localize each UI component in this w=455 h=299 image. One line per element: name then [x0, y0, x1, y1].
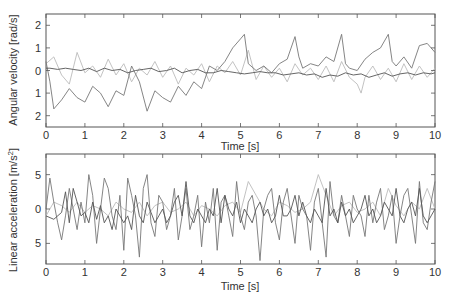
- y-tick-label: 1: [35, 87, 41, 99]
- x-tick-label: 1: [82, 266, 88, 278]
- x-tick-label: 9: [393, 129, 399, 141]
- top-plot-y-axis-label: Angular velocity [rad/s]: [7, 14, 19, 125]
- x-tick-label: 7: [315, 266, 321, 278]
- top-plot-frame: [46, 14, 435, 127]
- x-tick-label: 1: [82, 129, 88, 141]
- x-tick-label: 7: [315, 129, 321, 141]
- x-tick-label: 3: [160, 129, 166, 141]
- x-tick-label: 6: [276, 129, 282, 141]
- x-tick-label: 6: [276, 266, 282, 278]
- y-tick-label: 1: [35, 42, 41, 54]
- bottom-plot-x-axis-label: Time [s]: [221, 280, 260, 292]
- x-tick-label: 9: [393, 266, 399, 278]
- x-tick-label: 0: [43, 266, 49, 278]
- bottom-plot-y-axis-label: Linear acceleration [m/s2]: [6, 148, 19, 272]
- top-plot-x-axis-label: Time [s]: [221, 140, 260, 152]
- y-tick-label: 0: [35, 65, 41, 77]
- x-tick-label: 8: [354, 129, 360, 141]
- x-tick-label: 4: [199, 266, 205, 278]
- y-tick-label: 5: [35, 237, 41, 249]
- x-tick-label: 3: [160, 266, 166, 278]
- x-tick-label: 4: [199, 129, 205, 141]
- linear-acceleration-plot: 012345678910 505 Time [s] Linear acceler…: [6, 148, 441, 292]
- x-tick-label: 2: [121, 266, 127, 278]
- x-tick-label: 10: [429, 266, 441, 278]
- y-tick-label: 2: [35, 110, 41, 122]
- x-tick-label: 0: [43, 129, 49, 141]
- figure: 012345678910 21012 Time [s] Angular velo…: [0, 0, 455, 299]
- x-tick-label: 2: [121, 129, 127, 141]
- angular-velocity-plot: 012345678910 21012 Time [s] Angular velo…: [7, 14, 441, 152]
- x-tick-label: 5: [237, 266, 243, 278]
- x-tick-label: 10: [429, 129, 441, 141]
- y-tick-label: 2: [35, 19, 41, 31]
- y-tick-label: 5: [35, 169, 41, 181]
- x-tick-label: 8: [354, 266, 360, 278]
- y-tick-label: 0: [35, 203, 41, 215]
